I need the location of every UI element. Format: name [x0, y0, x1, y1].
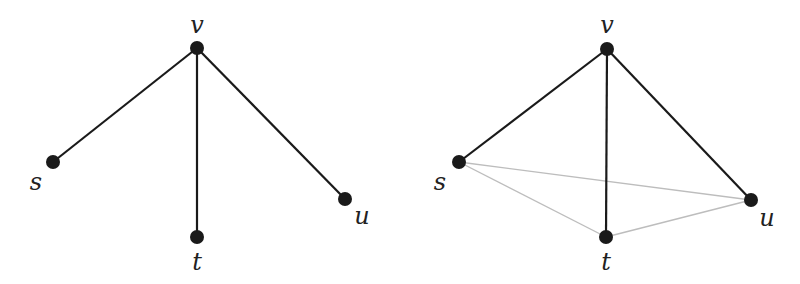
node-u [744, 193, 758, 207]
node-s [452, 155, 466, 169]
node-label-s: s [30, 168, 42, 196]
edge-t-u [606, 200, 751, 237]
node-t [190, 230, 204, 244]
node-label-v: v [190, 11, 204, 39]
node-label-t: t [192, 248, 202, 276]
edge-v-s [459, 49, 607, 162]
edge-v-t [606, 49, 607, 237]
node-label-v: v [600, 11, 614, 39]
node-label-t: t [601, 248, 611, 276]
graph-canvas: vstu vstu [0, 0, 800, 284]
edge-v-s [53, 48, 197, 162]
node-v [190, 41, 204, 55]
node-label-s: s [434, 168, 446, 196]
edge-s-t [459, 162, 606, 237]
star-graph: vstu [30, 11, 370, 276]
node-label-u: u [354, 202, 369, 230]
edge-v-u [197, 48, 345, 199]
edge-s-u [459, 162, 751, 200]
node-s [46, 155, 60, 169]
edge-v-u [607, 49, 751, 200]
node-t [599, 230, 613, 244]
node-u [338, 192, 352, 206]
node-label-u: u [759, 204, 774, 232]
completed-graph: vstu [434, 11, 775, 276]
node-v [600, 42, 614, 56]
